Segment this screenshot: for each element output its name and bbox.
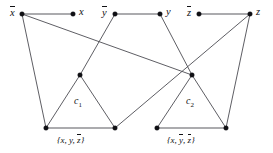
node-y [158,12,163,17]
node-c2-apex [190,73,195,78]
node-c1-apex [78,73,83,78]
label-x: x [79,7,84,18]
clause-name-c1: c1 [74,96,82,109]
label-not-y: y [102,6,107,18]
clause-name-c2: c2 [186,96,194,109]
node-c1-right [113,126,118,131]
label-not-z: z [187,6,191,18]
graph-figure: xxyyzzc1{x, y, z}c2{x, y, z} [0,0,273,153]
clause-set-label-c1: {x, y, z} [57,134,84,145]
node-c2-right [224,126,229,131]
node-x [71,12,76,17]
label-not-x: x [10,6,15,18]
edge-c2-apex-right [192,75,226,128]
edge-notx-to-c2-apex [22,14,192,75]
edge-c1-apex-right [80,75,115,128]
node-not-x [20,12,25,17]
label-z: z [256,7,260,18]
node-not-z [197,12,202,17]
node-c1-left [44,126,49,131]
label-y: y [166,7,171,18]
connector-edges-group [22,14,250,128]
edge-notx-to-c1-left [22,14,46,128]
node-not-y [113,12,118,17]
node-c2-left [155,126,160,131]
edge-y-to-c2-apex [160,14,192,75]
clause-set-label-c2: {x, y, z} [167,134,195,145]
graph-canvas [0,0,273,153]
graph-nodes-group [20,12,253,131]
clause-edges-group [46,75,226,128]
edge-noty-to-c1-apex [80,14,115,75]
node-z [248,12,253,17]
